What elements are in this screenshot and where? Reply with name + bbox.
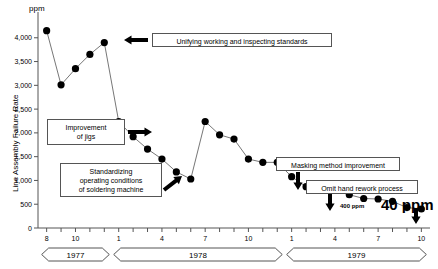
data-point xyxy=(187,175,194,182)
y-tick-label: 2,500 xyxy=(14,106,32,113)
y-tick-label: 3,000 xyxy=(14,82,32,89)
annotation-soldering-line1: Standardizing xyxy=(90,168,133,175)
data-label-400ppm: 400 ppm xyxy=(340,203,364,209)
data-point xyxy=(158,155,165,162)
y-tick-label: 500 xyxy=(20,201,32,208)
y-tick-label: 2,000 xyxy=(14,129,32,136)
arrow-head xyxy=(124,35,148,44)
y-tick-label: 4,000 xyxy=(14,34,32,41)
data-label-40ppm: 40 ppm xyxy=(381,196,434,213)
data-point xyxy=(360,195,367,202)
annotation-standardizing-soldering: Standardizing operating conditions of so… xyxy=(60,163,162,197)
annotation-improvement-of-jigs: Improvement of jigs xyxy=(47,119,125,145)
year-band-label: 1978 xyxy=(189,251,207,260)
arrow-rework xyxy=(325,194,334,211)
arrow-soldering xyxy=(163,176,182,192)
arrow-head xyxy=(325,194,334,211)
data-point xyxy=(202,118,209,125)
annotation-jigs-line2: of jigs xyxy=(77,133,95,140)
year-band-label: 1979 xyxy=(348,251,366,260)
x-tick-label: 8 xyxy=(45,235,49,242)
data-point xyxy=(101,39,108,46)
year-band-label: 1977 xyxy=(67,251,85,260)
data-point xyxy=(144,145,151,152)
x-tick-label: 7 xyxy=(203,235,207,242)
data-point xyxy=(57,81,64,88)
chart-container: ppm Line Assembly Failure Rate 05001,000… xyxy=(0,0,438,269)
arrow-masking xyxy=(293,172,302,190)
annotation-masking-text: Masking method improvement xyxy=(291,162,385,169)
y-tick-label: 1,500 xyxy=(14,153,32,160)
x-tick-label: 4 xyxy=(160,235,164,242)
y-tick-label: 3,500 xyxy=(14,58,32,65)
data-point xyxy=(245,155,252,162)
x-tick-label: 4 xyxy=(333,235,337,242)
data-point xyxy=(43,27,50,34)
annotation-unifying-standards: Unifying working and inspecting standard… xyxy=(152,33,332,47)
data-point xyxy=(173,168,180,175)
data-point xyxy=(259,159,266,166)
x-tick-label: 7 xyxy=(376,235,380,242)
y-tick-label: 0 xyxy=(28,225,32,232)
annotation-masking-method: Masking method improvement xyxy=(276,157,400,171)
data-point xyxy=(230,135,237,142)
x-tick-label: 10 xyxy=(72,235,80,242)
data-point xyxy=(72,65,79,72)
annotation-rework-text: Omit hand rework process xyxy=(321,185,403,192)
annotation-jigs-line1: Improvement xyxy=(66,124,107,131)
annotation-soldering-line2: operating conditions xyxy=(80,177,143,184)
data-point xyxy=(130,133,137,140)
x-tick-label: 10 xyxy=(417,235,425,242)
arrow-head xyxy=(293,172,302,190)
arrow-unifying xyxy=(124,35,148,44)
arrow-head xyxy=(163,176,182,192)
data-point xyxy=(216,131,223,138)
data-point xyxy=(86,51,93,58)
data-point xyxy=(288,173,295,180)
x-tick-label: 1 xyxy=(290,235,294,242)
annotation-soldering-line3: of soldering machine xyxy=(79,186,144,193)
annotation-omit-hand-rework: Omit hand rework process xyxy=(306,180,418,194)
annotation-unifying-text: Unifying working and inspecting standard… xyxy=(176,38,307,45)
x-tick-label: 10 xyxy=(245,235,253,242)
x-tick-label: 1 xyxy=(117,235,121,242)
y-tick-label: 1,000 xyxy=(14,177,32,184)
